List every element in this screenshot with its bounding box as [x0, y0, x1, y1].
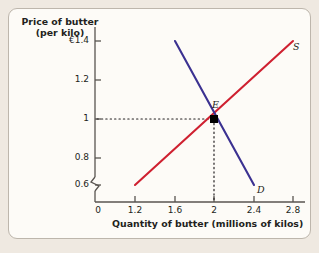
figure-panel: Price of butter (per kilo) Quantity of b… [8, 8, 311, 239]
supply-curve-label: S [293, 42, 300, 53]
x-tick-label-1.6: 1.6 [161, 205, 189, 215]
y-tick-label-0.8: 0.8 [45, 152, 89, 162]
x-tick-label-2.8: 2.8 [279, 205, 307, 215]
y-axis-break-icon [91, 177, 99, 191]
y-tick-label-1.4: €1.4 [45, 35, 89, 45]
demand-curve-label: D [257, 185, 265, 196]
x-tick-label-2.4: 2.4 [240, 205, 268, 215]
y-tick-label-0.6: 0.6 [45, 179, 89, 189]
equilibrium-label: E [212, 100, 219, 111]
x-tick-label-0: 0 [84, 205, 112, 215]
x-tick-label-1.2: 1.2 [121, 205, 149, 215]
y-axis-label-line1: Price of butter [21, 16, 98, 27]
x-axis-label: Quantity of butter (millions of kilos) [112, 219, 303, 230]
x-tick-label-2.0: 2 [200, 205, 228, 215]
y-tick-label-1.2: 1.2 [45, 74, 89, 84]
equilibrium-point-marker [210, 115, 218, 123]
y-tick-label-1.0: 1 [45, 113, 89, 123]
